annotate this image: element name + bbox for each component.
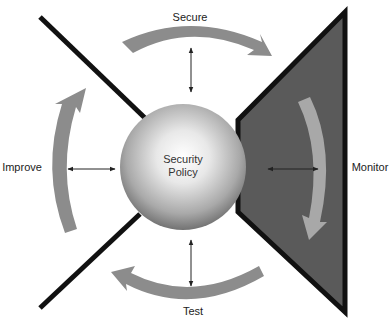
improve-label: Improve: [2, 161, 42, 173]
security-policy-line1: Security: [163, 153, 203, 166]
monitor-wedge: [238, 12, 345, 312]
secure-label: Secure: [173, 11, 208, 23]
test-label: Test: [183, 305, 203, 317]
security-policy-line2: Policy: [163, 166, 203, 179]
security-policy-label: Security Policy: [163, 153, 203, 179]
test-cycle-arrow: [111, 266, 264, 299]
improve-cycle-arrow: [52, 88, 86, 233]
secure-cycle-arrow: [122, 26, 272, 56]
upper-left-divider-line: [40, 17, 145, 118]
lower-left-divider-line: [40, 214, 140, 308]
monitor-label: Monitor: [352, 161, 389, 173]
